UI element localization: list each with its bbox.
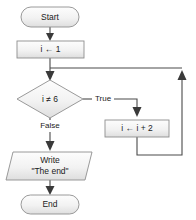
edge-label-true: True	[92, 93, 114, 105]
connector-loop-back	[137, 70, 187, 155]
node-output-label-line2: "The end"	[31, 166, 68, 176]
node-output-label-line1: Write	[40, 155, 60, 165]
edge-label-true-text: True	[95, 94, 112, 103]
node-init-label: i ← 1	[41, 44, 61, 54]
connector-init-to-decision	[46, 58, 55, 81]
connector-output-to-end	[46, 180, 55, 195]
node-start: Start	[21, 7, 79, 27]
node-init: i ← 1	[17, 41, 84, 58]
connector-start-to-init	[46, 27, 54, 41]
node-output: Write "The end"	[6, 152, 92, 180]
flowchart-diagram: Start i ← 1 i ≠ 6 i ← i + 2 Write "The e…	[0, 0, 196, 220]
node-increment-label: i ← i + 2	[121, 123, 153, 133]
node-increment: i ← i + 2	[105, 120, 169, 137]
node-decision: i ≠ 6	[17, 80, 83, 118]
edge-label-false-text: False	[40, 121, 60, 130]
node-end: End	[21, 195, 79, 214]
edge-label-false: False	[37, 120, 63, 132]
node-end-label: End	[42, 199, 57, 209]
flowchart-canvas: Start i ← 1 i ≠ 6 i ← i + 2 Write "The e…	[0, 0, 196, 220]
node-decision-label: i ≠ 6	[42, 94, 58, 104]
node-start-label: Start	[41, 12, 60, 22]
